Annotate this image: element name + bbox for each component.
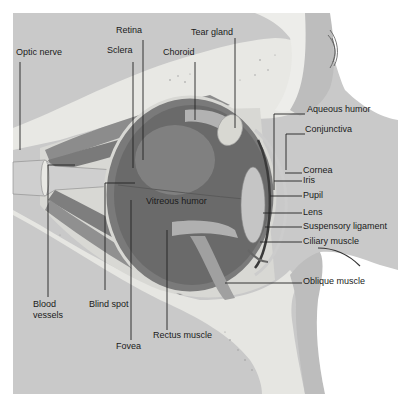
label-retina: Retina <box>116 25 142 36</box>
label-lens: Lens <box>303 207 323 218</box>
label-oblique-muscle: Oblique muscle <box>303 276 365 287</box>
label-optic-nerve: Optic nerve <box>16 47 62 58</box>
label-tear-gland: Tear gland <box>191 27 233 38</box>
label-iris: Iris <box>303 175 315 186</box>
label-suspensory-ligament: Suspensory ligament <box>303 221 387 232</box>
label-choroid: Choroid <box>163 47 195 58</box>
label-conjunctiva: Conjunctiva <box>305 124 352 135</box>
label-blood-vessels-line1: Blood <box>33 299 63 310</box>
label-blood-vessels: Blood vessels <box>33 299 63 321</box>
label-sclera: Sclera <box>107 45 133 56</box>
label-vitreous-humor: Vitreous humor <box>146 196 207 207</box>
vitreous-highlight <box>135 125 215 195</box>
label-pupil: Pupil <box>303 190 323 201</box>
lower-eyelid <box>317 252 398 394</box>
label-ciliary-muscle: Ciliary muscle <box>303 236 359 247</box>
label-blood-vessels-line2: vessels <box>33 310 63 321</box>
label-aqueous-humor: Aqueous humor <box>307 104 371 115</box>
label-blind-spot: Blind spot <box>89 299 129 310</box>
label-fovea: Fovea <box>116 341 141 352</box>
lens-shape <box>241 167 265 243</box>
label-rectus-muscle: Rectus muscle <box>153 330 212 341</box>
